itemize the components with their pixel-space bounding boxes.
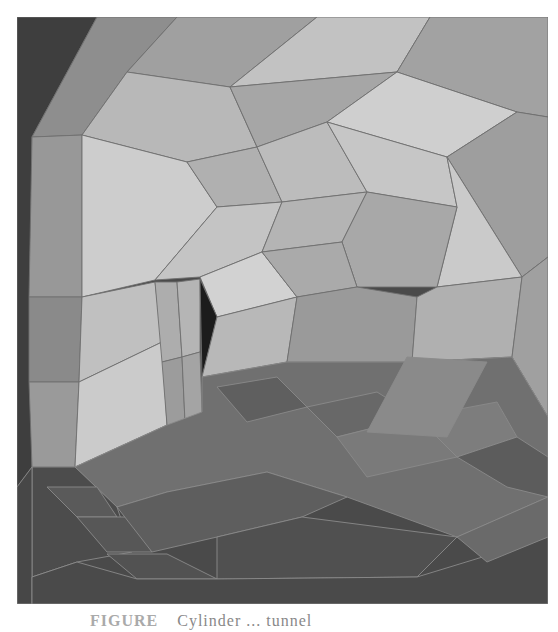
tunnel-mesh (17, 17, 548, 604)
figure-caption-label: FIGURE (90, 612, 158, 629)
figure-caption: FIGURE Cylinder ... tunnel (90, 612, 490, 632)
figure-caption-text: Cylinder ... tunnel (177, 612, 312, 629)
tunnel-render-figure (17, 17, 548, 604)
